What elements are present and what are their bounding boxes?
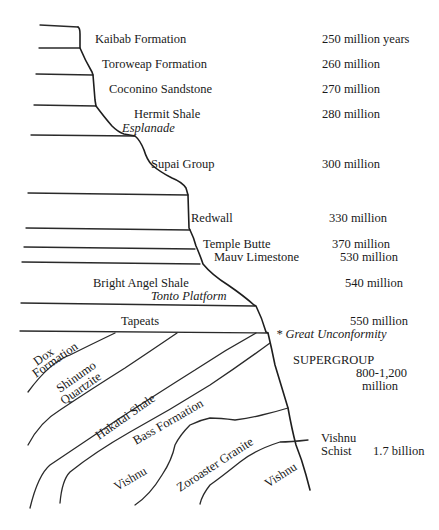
- kaibab-top-line: [40, 25, 78, 27]
- basement-label-zoroaster: Zoroaster Granite: [174, 434, 256, 494]
- age-supai: 300 million: [322, 157, 381, 171]
- mauv-base-line: [22, 262, 200, 264]
- tapeats-base-line: [20, 331, 268, 333]
- age-mauv: 530 million: [340, 250, 399, 264]
- coconino-base-line: [34, 105, 96, 106]
- age-tapeats: 550 million: [350, 314, 409, 328]
- temple-butte-base-line: [24, 247, 195, 249]
- basement-label-schist-1: Vishnu: [321, 431, 357, 445]
- feature-label-tonto-platform: Tonto Platform: [151, 289, 227, 303]
- geologic-cross-section: Kaibab Formation Toroweap Formation Coco…: [0, 0, 439, 530]
- bright-angel-base-line: [21, 303, 255, 306]
- hermit-base-line: [31, 135, 135, 136]
- layer-label-hermit: Hermit Shale: [134, 107, 201, 121]
- age-redwall: 330 million: [329, 211, 388, 225]
- layer-label-tapeats: Tapeats: [121, 314, 159, 328]
- supergroup-age-line2: million: [362, 379, 399, 393]
- age-coconino: 270 million: [322, 82, 381, 96]
- supergroup-label: SUPERGROUP: [293, 353, 374, 367]
- age-toroweap: 260 million: [322, 57, 381, 71]
- layer-label-temple-butte: Temple Butte: [203, 237, 271, 251]
- age-temple-butte: 370 million: [332, 237, 391, 251]
- layer-label-supai: Supai Group: [151, 157, 215, 171]
- supai-base-line: [28, 193, 188, 195]
- basement-label-vishnu-right: Vishnu: [262, 459, 300, 490]
- layer-label-redwall: Redwall: [191, 211, 233, 225]
- age-kaibab: 250 million years: [322, 32, 410, 46]
- layer-label-mauv: Mauv Limestone: [214, 250, 300, 264]
- redwall-base-line: [26, 228, 190, 230]
- feature-label-esplanade: Esplanade: [121, 121, 175, 135]
- feature-label-great-unconformity: * Great Unconformity: [276, 327, 387, 341]
- toroweap-base-line: [36, 74, 93, 75]
- layer-label-bright-angel: Bright Angel Shale: [93, 276, 189, 290]
- layer-label-toroweap: Toroweap Formation: [102, 57, 208, 71]
- supergroup-age-line1: 800-1,200: [356, 366, 407, 380]
- age-hermit: 280 million: [322, 107, 381, 121]
- layer-label-kaibab: Kaibab Formation: [95, 32, 187, 46]
- layer-label-coconino: Coconino Sandstone: [109, 82, 213, 96]
- basement-label-vishnu-left: Vishnu: [112, 463, 150, 493]
- basement-label-schist-2: Schist: [321, 444, 352, 458]
- age-vishnu-schist: 1.7 billion: [373, 444, 425, 458]
- age-bright-angel: 540 million: [345, 276, 404, 290]
